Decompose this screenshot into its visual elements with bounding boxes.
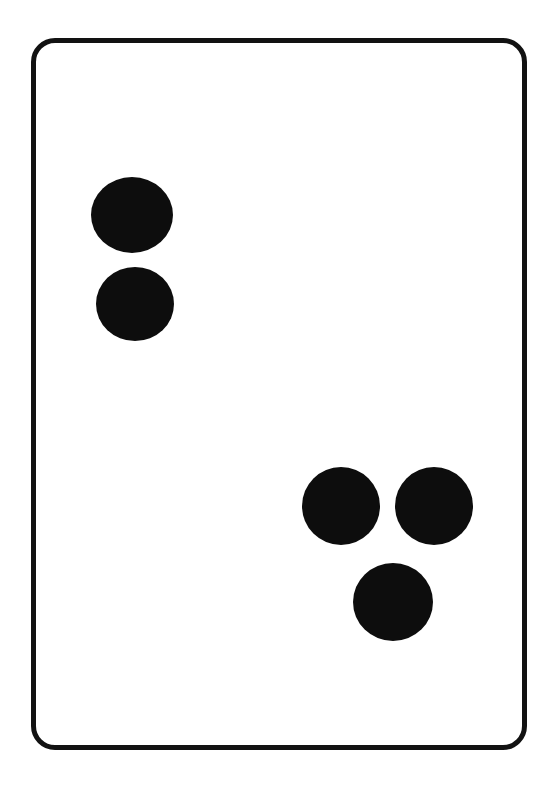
pip-upper-left-1 — [91, 177, 173, 253]
pip-lower-right-3 — [353, 563, 433, 641]
domino-tile[interactable] — [31, 38, 527, 750]
pip-upper-left-2 — [96, 267, 174, 341]
canvas — [0, 0, 559, 791]
pip-lower-right-2 — [395, 467, 473, 545]
pip-lower-right-1 — [302, 467, 380, 545]
